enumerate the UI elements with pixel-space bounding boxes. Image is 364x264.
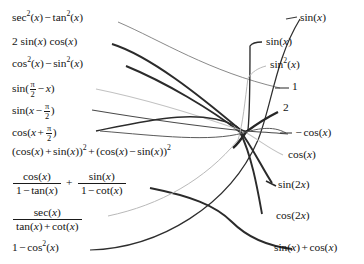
right-item-1[interactable]: sin(x) [300,12,326,23]
right-item-10[interactable]: sin(x)+cos(x) [274,242,337,253]
tick-R8 [266,181,276,186]
left-item-7[interactable]: (cos(x)+sin(x))2+(cos(x)−sin(x))2 [12,146,171,157]
right-item-4[interactable]: 1 [292,81,298,92]
left-item-2[interactable]: 2 sin(x) cos(x) [12,36,77,47]
tick-R1 [286,17,297,19]
right-item-2[interactable]: sin(x) [266,36,292,47]
left-item-10[interactable]: 1−cos2(x) [12,242,59,253]
wire-L8-R10 [150,188,292,249]
wire-L6-R2 [96,42,262,131]
left-item-3[interactable]: cos2(x)−sin2(x) [12,58,83,69]
right-item-7[interactable]: cos(x) [288,149,316,160]
wire-L5-R6 [92,110,288,134]
matching-diagram: sec2(x)−tan2(x) 2 sin(x) cos(x) cos2(x)−… [0,0,364,264]
left-item-9[interactable]: sec(x) tan(x)+cot(x) [12,206,83,233]
wire-L9-R3 [108,66,266,216]
right-item-6[interactable]: −cos(x) [294,127,331,138]
left-item-6[interactable]: cos(x+π2) [12,124,57,142]
right-item-9[interactable]: cos(2x) [276,210,310,221]
wire-L3-R9 [126,66,262,214]
left-item-1[interactable]: sec2(x)−tan2(x) [12,12,83,23]
wire-L1-R4 [118,22,280,88]
right-item-5[interactable]: 2 [283,102,289,113]
wire-L2-R8 [112,44,272,183]
wire-crossing-strand [100,128,286,137]
right-item-8[interactable]: sin(2x) [278,179,310,190]
left-item-8[interactable]: cos(x) 1−tan(x) + sin(x) 1−cot(x) [12,170,127,197]
wire-L10-R1 [90,19,300,250]
right-item-3[interactable]: sin2(x) [270,59,300,70]
wire-L7-R5 [233,112,278,148]
left-item-5[interactable]: sin(x−π2) [12,102,55,120]
left-item-4[interactable]: sin(π2−x) [12,80,55,98]
